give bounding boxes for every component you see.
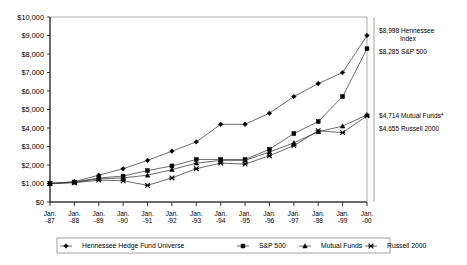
annotation-text: $4,655 Russell 2000	[379, 125, 439, 132]
data-point-cross	[169, 176, 174, 181]
x-tick-label: Jan.	[214, 210, 227, 217]
series-s-p-500	[48, 47, 369, 186]
y-tick-label: $1,000	[21, 179, 44, 188]
x-tick-label: -97	[289, 217, 299, 224]
chart-container: $0$1,000$2,000$3,000$4,000$5,000$6,000$7…	[0, 0, 467, 265]
y-tick-label: $9,000	[21, 31, 44, 40]
data-point-cross	[340, 130, 345, 135]
data-point-diamond	[121, 166, 126, 171]
series-line	[50, 115, 367, 184]
annotations-group: $8,998 HennesseeIndex$8,285 S&P 500$4,71…	[374, 17, 444, 202]
data-point-square	[241, 244, 245, 248]
data-point-diamond	[243, 122, 248, 127]
x-tick-label: Jan.	[44, 210, 57, 217]
annotation-text: $4,714 Mutual Funds*	[379, 112, 444, 119]
x-tick-label: -00	[362, 217, 372, 224]
x-tick-label: -99	[338, 217, 348, 224]
y-tick-label: $8,000	[21, 50, 44, 59]
data-point-square	[365, 47, 369, 51]
line-chart: $0$1,000$2,000$3,000$4,000$5,000$6,000$7…	[0, 0, 467, 265]
y-tick-label: $2,000	[21, 161, 44, 170]
annotation-text: $8,285 S&P 500	[379, 48, 427, 55]
data-point-square	[146, 169, 150, 173]
x-tick-label: -92	[167, 217, 177, 224]
x-tick-label: -88	[70, 217, 80, 224]
x-tick-label: -90	[118, 217, 128, 224]
x-tick-label: Jan.	[68, 210, 81, 217]
x-tick-label: -95	[240, 217, 250, 224]
data-point-diamond	[170, 149, 175, 154]
data-point-cross	[145, 183, 150, 188]
data-point-cross	[194, 166, 199, 171]
y-tick-label: $0	[36, 198, 44, 207]
legend-label: S&P 500	[259, 242, 286, 249]
x-tick-label: -93	[192, 217, 202, 224]
y-tick-label: $10,000	[17, 13, 44, 22]
x-tick-label: Jan.	[239, 210, 252, 217]
x-tick-label: -91	[143, 217, 153, 224]
x-tick-label: Jan.	[312, 210, 325, 217]
x-tick-label: Jan.	[288, 210, 301, 217]
legend-label: Russell 2000	[387, 242, 427, 249]
x-tick-label: Jan.	[263, 210, 276, 217]
legend-label: Mutual Funds	[321, 242, 363, 249]
x-tick-label: Jan.	[93, 210, 106, 217]
annotation-text: Index	[400, 35, 417, 42]
data-point-square	[341, 95, 345, 99]
series-mutual-funds	[48, 112, 370, 185]
data-point-square	[292, 132, 296, 136]
annotation-text: $8,998 Hennessee	[379, 27, 435, 34]
data-point-square	[316, 120, 320, 124]
x-tick-label: Jan.	[117, 210, 130, 217]
x-tick-label: -94	[216, 217, 226, 224]
legend-label: Hennessee Hedge Fund Universe	[82, 242, 185, 250]
x-tick-label: Jan.	[141, 210, 154, 217]
data-point-diamond	[145, 158, 150, 163]
x-tick-label: -87	[45, 217, 55, 224]
y-tick-label: $5,000	[21, 105, 44, 114]
x-axis-ticks: Jan.-87Jan.-88Jan.-89Jan.-90Jan.-91Jan.-…	[44, 202, 374, 224]
x-tick-label: Jan.	[190, 210, 203, 217]
y-tick-label: $7,000	[21, 68, 44, 77]
x-tick-label: -96	[265, 217, 275, 224]
data-point-diamond	[340, 70, 345, 75]
x-tick-label: Jan.	[166, 210, 179, 217]
data-point-diamond	[292, 94, 297, 99]
series-line	[50, 36, 367, 184]
x-tick-label: -89	[94, 217, 104, 224]
y-tick-label: $4,000	[21, 124, 44, 133]
y-tick-label: $6,000	[21, 87, 44, 96]
series-russell-2000	[47, 114, 369, 188]
data-point-diamond	[316, 81, 321, 86]
x-tick-label: Jan.	[361, 210, 374, 217]
x-tick-label: -98	[313, 217, 323, 224]
y-tick-label: $3,000	[21, 142, 44, 151]
series-line	[50, 49, 367, 184]
data-point-diamond	[267, 111, 272, 116]
series-group	[47, 33, 369, 187]
x-tick-label: Jan.	[336, 210, 349, 217]
y-axis-ticks: $0$1,000$2,000$3,000$4,000$5,000$6,000$7…	[17, 13, 50, 207]
data-point-triangle	[340, 124, 345, 128]
data-point-diamond	[365, 33, 370, 38]
series-hennessee-hedge-fund-universe	[48, 33, 370, 186]
chart-legend: Hennessee Hedge Fund UniverseS&P 500Mutu…	[57, 238, 427, 253]
